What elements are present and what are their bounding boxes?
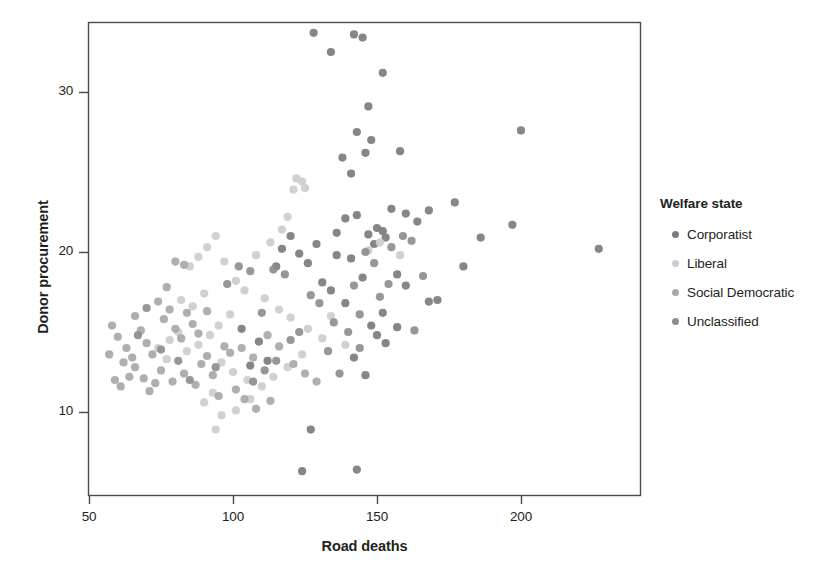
data-point <box>387 243 395 251</box>
data-point <box>425 206 433 214</box>
data-point <box>353 211 361 219</box>
data-point <box>361 371 369 379</box>
data-point <box>312 378 320 386</box>
data-point <box>350 282 358 290</box>
data-point <box>119 358 127 366</box>
y-tick-label: 10 <box>33 403 73 418</box>
x-tick-label: 150 <box>357 509 397 524</box>
data-point <box>367 322 375 330</box>
data-point <box>140 374 148 382</box>
data-point <box>370 259 378 267</box>
data-points <box>105 29 603 476</box>
legend-item-liberal[interactable]: Liberal <box>660 249 810 278</box>
data-point <box>238 344 246 352</box>
data-point <box>183 309 191 317</box>
data-point <box>330 318 338 326</box>
legend-item-label: Social Democratic <box>687 285 794 300</box>
data-point <box>295 250 303 258</box>
data-point <box>364 230 372 238</box>
data-point <box>232 406 240 414</box>
data-point <box>131 363 139 371</box>
x-tick-label: 100 <box>213 509 253 524</box>
y-axis-label: Donor procurement <box>35 152 51 382</box>
data-point <box>240 395 248 403</box>
data-point <box>275 342 283 350</box>
data-point <box>232 277 240 285</box>
y-tick-label: 20 <box>33 243 73 258</box>
data-point <box>229 368 237 376</box>
legend-item-social-democratic[interactable]: Social Democratic <box>660 278 810 307</box>
data-point <box>347 170 355 178</box>
data-point <box>194 253 202 261</box>
legend-item-unclassified[interactable]: Unclassified <box>660 307 810 336</box>
x-tick-label: 200 <box>501 509 541 524</box>
data-point <box>122 344 130 352</box>
data-point <box>327 286 335 294</box>
data-point <box>353 466 361 474</box>
plot-frame <box>89 23 641 496</box>
data-point <box>246 362 254 370</box>
data-point <box>407 237 415 245</box>
data-point <box>318 278 326 286</box>
data-point <box>451 198 459 206</box>
data-point <box>335 370 343 378</box>
data-point <box>278 226 286 234</box>
data-point <box>376 293 384 301</box>
axis-ticks <box>79 93 522 505</box>
data-point <box>131 312 139 320</box>
data-point <box>361 149 369 157</box>
data-point <box>226 349 234 357</box>
data-point <box>376 238 384 246</box>
data-point <box>266 397 274 405</box>
data-point <box>215 392 223 400</box>
data-point <box>402 210 410 218</box>
data-point <box>269 266 277 274</box>
data-point <box>189 302 197 310</box>
data-point <box>379 309 387 317</box>
data-point <box>148 350 156 358</box>
data-point <box>263 331 271 339</box>
data-point <box>143 339 151 347</box>
data-point <box>160 315 168 323</box>
data-point <box>249 354 257 362</box>
data-point <box>384 280 392 288</box>
data-point <box>168 378 176 386</box>
data-point <box>134 331 142 339</box>
data-point <box>263 357 271 365</box>
data-point <box>318 334 326 342</box>
data-point <box>272 357 280 365</box>
data-point <box>373 331 381 339</box>
data-point <box>396 251 404 259</box>
data-point <box>477 234 485 242</box>
legend-marker-icon <box>672 289 679 296</box>
data-point <box>197 360 205 368</box>
data-point <box>212 232 220 240</box>
data-point <box>261 294 269 302</box>
data-point <box>166 306 174 314</box>
data-point <box>186 376 194 384</box>
data-point <box>419 272 427 280</box>
data-point <box>333 251 341 259</box>
data-point <box>459 262 467 270</box>
legend-item-label: Liberal <box>687 256 727 271</box>
data-point <box>287 336 295 344</box>
data-point <box>252 405 260 413</box>
data-point <box>174 357 182 365</box>
data-point <box>402 282 410 290</box>
data-point <box>353 128 361 136</box>
data-point <box>289 186 297 194</box>
data-point <box>307 291 315 299</box>
legend: Welfare state CorporatistLiberalSocial D… <box>660 196 810 336</box>
legend-item-label: Unclassified <box>687 314 759 329</box>
data-point <box>393 270 401 278</box>
data-point <box>341 341 349 349</box>
legend-item-label: Corporatist <box>687 227 752 242</box>
data-point <box>223 280 231 288</box>
data-point <box>177 334 185 342</box>
data-point <box>215 322 223 330</box>
data-point <box>595 245 603 253</box>
data-point <box>203 352 211 360</box>
data-point <box>315 299 323 307</box>
legend-item-corporatist[interactable]: Corporatist <box>660 220 810 249</box>
data-point <box>341 299 349 307</box>
